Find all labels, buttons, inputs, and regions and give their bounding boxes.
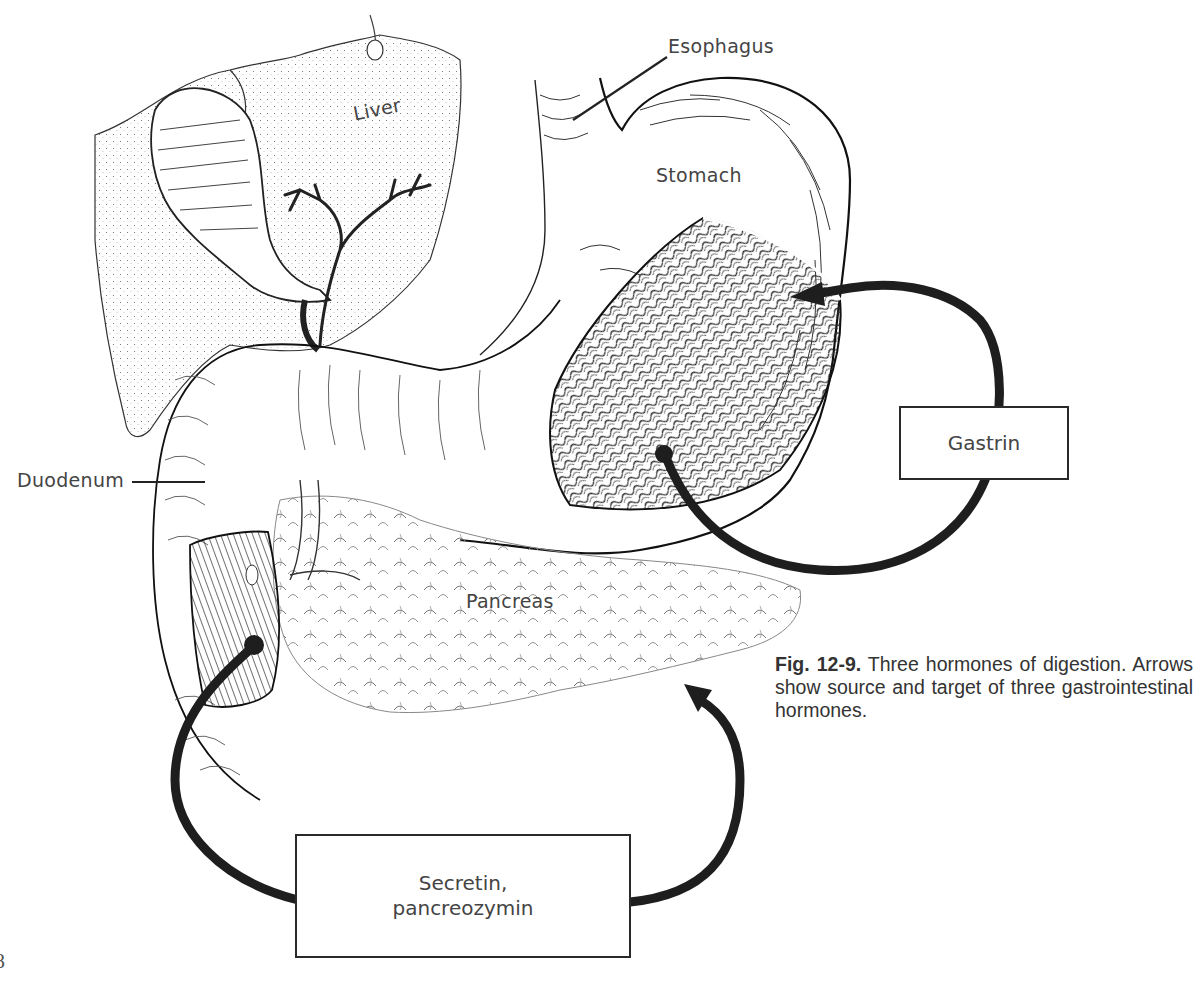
figure-number: Fig. 12-9.	[775, 653, 861, 675]
label-pancreas: Pancreas	[466, 590, 554, 612]
page-number: 8	[0, 948, 5, 974]
label-esophagus: Esophagus	[668, 35, 774, 57]
secretin-pancreozymin-box: Secretin, pancreozymin	[295, 834, 631, 958]
gastrin-label: Gastrin	[948, 431, 1020, 456]
digestion-hormones-figure: Esophagus Liver Stomach Duodenum Pancrea…	[0, 0, 1200, 981]
secretin-source-dot-icon	[244, 635, 264, 655]
secretin-label: Secretin,	[419, 871, 508, 896]
gastrin-source-dot-icon	[655, 445, 673, 463]
duodenum-window	[190, 532, 279, 707]
label-stomach: Stomach	[656, 164, 742, 186]
figure-caption: Fig. 12-9. Three hormones of digestion. …	[775, 653, 1193, 722]
pancreozymin-label: pancreozymin	[393, 896, 534, 921]
liver-drawing	[95, 15, 461, 437]
label-duodenum: Duodenum	[17, 469, 124, 491]
gastrin-box: Gastrin	[899, 406, 1069, 480]
